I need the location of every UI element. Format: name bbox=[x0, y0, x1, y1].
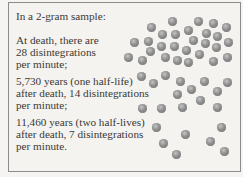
atom-dot-icon bbox=[178, 103, 187, 112]
atom-dot-icon bbox=[213, 87, 222, 96]
atom-dot-icon bbox=[138, 104, 147, 113]
atom-dot-icon bbox=[137, 72, 146, 81]
stage-3-line-1: 11,460 years (two half-lives) bbox=[16, 116, 145, 128]
stage-2-line-3: per minute; bbox=[16, 99, 67, 111]
atom-dot-icon bbox=[182, 46, 191, 55]
atom-dot-icon bbox=[224, 38, 233, 47]
atom-dot-icon bbox=[213, 32, 222, 41]
atom-dot-icon bbox=[220, 147, 229, 156]
atom-dot-icon bbox=[201, 39, 210, 48]
atom-dot-icon bbox=[161, 71, 170, 80]
atom-dot-icon bbox=[171, 30, 180, 39]
atom-dot-icon bbox=[170, 42, 179, 51]
atom-dot-icon bbox=[209, 19, 218, 28]
stage-3-line-3: per minute. bbox=[16, 140, 67, 152]
atom-dot-icon bbox=[196, 96, 205, 105]
atom-dot-icon bbox=[209, 57, 218, 66]
atom-dot-icon bbox=[147, 23, 156, 32]
atom-dot-icon bbox=[158, 30, 167, 39]
atom-dot-icon bbox=[159, 139, 168, 148]
stage-3-line-2: after death, 7 disintegrations bbox=[16, 128, 143, 140]
atom-dot-icon bbox=[124, 53, 133, 62]
stage-2-line-2: after death, 14 disintegrations bbox=[16, 87, 149, 99]
atom-dot-icon bbox=[206, 137, 215, 146]
atom-dot-icon bbox=[222, 23, 231, 32]
atom-dot-icon bbox=[168, 17, 177, 26]
atom-dot-icon bbox=[161, 53, 170, 62]
atom-dot-icon bbox=[200, 77, 209, 86]
stage-1-line-1: At death, there are bbox=[16, 34, 99, 46]
stage-1-line-2: 28 disintegrations bbox=[16, 46, 96, 58]
atom-dot-icon bbox=[194, 17, 203, 26]
atom-dot-icon bbox=[173, 90, 182, 99]
atom-dot-icon bbox=[202, 29, 211, 38]
stage-1-line-3: per minute; bbox=[16, 58, 67, 70]
atom-dot-icon bbox=[172, 150, 181, 159]
atom-dot-icon bbox=[184, 58, 193, 67]
atom-dot-icon bbox=[223, 78, 232, 87]
atom-dot-icon bbox=[223, 53, 232, 62]
stage-2-line-1: 5,730 years (one half-life) bbox=[16, 75, 133, 87]
intro-text: In a 2-gram sample: bbox=[16, 10, 106, 22]
atom-dot-icon bbox=[144, 37, 153, 46]
atom-dot-icon bbox=[189, 36, 198, 45]
atom-dot-icon bbox=[157, 42, 166, 51]
atom-dot-icon bbox=[181, 130, 190, 139]
atom-dot-icon bbox=[187, 85, 196, 94]
atom-dot-icon bbox=[152, 123, 161, 132]
atom-dot-icon bbox=[138, 56, 147, 65]
atom-dot-icon bbox=[213, 103, 222, 112]
atom-dot-icon bbox=[149, 79, 158, 88]
atom-dot-icon bbox=[130, 38, 139, 47]
atom-dot-icon bbox=[173, 56, 182, 65]
atom-dot-icon bbox=[217, 123, 226, 132]
atom-dot-icon bbox=[176, 77, 185, 86]
atom-dot-icon bbox=[184, 26, 193, 35]
atom-dot-icon bbox=[212, 43, 221, 52]
atom-dot-icon bbox=[146, 47, 155, 56]
atom-dot-icon bbox=[157, 104, 166, 113]
atom-dot-icon bbox=[195, 50, 204, 59]
